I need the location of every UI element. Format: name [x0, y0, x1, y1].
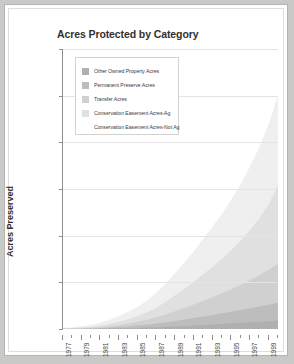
gridline [63, 49, 278, 50]
x-axis-tick [193, 335, 194, 340]
x-axis-tick-label: 1995 [233, 343, 240, 357]
x-axis-tick [118, 335, 119, 340]
chart-legend: Other Owned Property AcresPermanent Pres… [75, 57, 179, 135]
y-axis-tick [59, 142, 63, 143]
x-axis-tick-label: 1977 [65, 343, 72, 357]
chart-frame: Acres Protected by Category 050001000015… [4, 4, 288, 356]
legend-item: Conservation Easement Acres-Ag [82, 107, 170, 119]
legend-swatch-icon [82, 96, 89, 103]
y-axis-tick [59, 189, 63, 190]
chart-canvas: Acres Protected by Category 050001000015… [8, 8, 284, 352]
y-axis-labels: 050001000015000200002500030000 [9, 9, 59, 364]
x-axis-tick [109, 335, 110, 338]
x-axis-tick-label: 1985 [139, 343, 146, 357]
x-axis-tick [81, 335, 82, 340]
legend-item-label: Permanent Preserve Acres [94, 82, 155, 88]
legend-item-label: Transfer Acres [94, 96, 127, 102]
x-axis-tick [146, 335, 147, 338]
x-axis-tick [90, 335, 91, 338]
x-axis-tick [277, 335, 278, 338]
x-axis-tick [127, 335, 128, 338]
x-axis-tick-label: 1999 [270, 343, 277, 357]
x-axis-tick [99, 335, 100, 340]
x-axis-tick-label: 1981 [102, 343, 109, 357]
x-axis-tick [258, 335, 259, 338]
y-axis-tick [59, 329, 63, 330]
legend-item-label: Conservation Easement Acres-Not Ag [94, 124, 179, 130]
x-axis-tick [230, 335, 231, 340]
x-axis-tick [249, 335, 250, 340]
x-axis-tick [62, 335, 63, 340]
x-axis-tick [221, 335, 222, 338]
x-axis-tick-label: 1997 [251, 343, 258, 357]
x-axis-tick [212, 335, 213, 340]
y-axis-tick [59, 236, 63, 237]
legend-swatch-icon [82, 124, 89, 131]
y-axis-tick [59, 96, 63, 97]
x-axis-tick [202, 335, 203, 338]
legend-swatch-icon [82, 68, 89, 75]
legend-item-label: Conservation Easement Acres-Ag [94, 110, 170, 116]
y-axis-title: Acres Preserved [5, 186, 15, 257]
gridline [63, 236, 278, 237]
x-axis-tick-label: 1987 [158, 343, 165, 357]
x-axis-labels: 1977197919811983198519871989199119931995… [62, 335, 277, 364]
x-axis-tick [155, 335, 156, 340]
x-axis-tick [71, 335, 72, 338]
x-axis-tick-label: 1979 [83, 343, 90, 357]
legend-swatch-icon [82, 110, 89, 117]
x-axis-tick [240, 335, 241, 338]
y-axis-tick [59, 49, 63, 50]
x-axis-tick [174, 335, 175, 340]
legend-item: Conservation Easement Acres-Not Ag [82, 121, 179, 133]
x-axis-tick-label: 1983 [121, 343, 128, 357]
y-axis-tick [59, 282, 63, 283]
legend-item: Permanent Preserve Acres [82, 79, 155, 91]
x-axis-tick-label: 1991 [195, 343, 202, 357]
legend-swatch-icon [82, 82, 89, 89]
x-axis-tick [137, 335, 138, 340]
chart-title: Acres Protected by Category [57, 28, 198, 40]
x-axis-tick-label: 1989 [177, 343, 184, 357]
x-axis-tick [268, 335, 269, 340]
x-axis-tick-label: 1993 [214, 343, 221, 357]
legend-item: Transfer Acres [82, 93, 127, 105]
gridline [63, 282, 278, 283]
gridline [63, 142, 278, 143]
x-axis-tick [184, 335, 185, 338]
gridline [63, 189, 278, 190]
legend-item-label: Other Owned Property Acres [94, 68, 159, 74]
x-axis-tick [165, 335, 166, 338]
legend-item: Other Owned Property Acres [82, 65, 159, 77]
